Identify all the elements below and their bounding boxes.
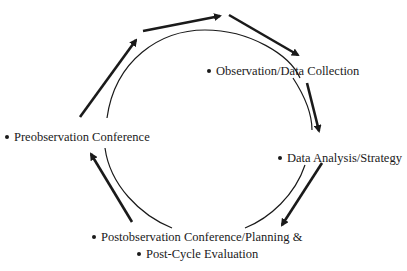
- stage-preobservation-label: Preobservation Conference: [14, 130, 150, 144]
- cycle-diagram: Observation/Data Collection Data Analysi…: [0, 0, 407, 271]
- arrow-observation-to-analysis: [307, 83, 319, 131]
- stage-observation: Observation/Data Collection: [207, 64, 359, 78]
- flow-arrows: [80, 15, 322, 225]
- arrow-pre-to-top: [80, 40, 136, 117]
- stage-observation-label: Observation/Data Collection: [216, 64, 359, 78]
- stage-preobservation: Preobservation Conference: [5, 130, 150, 144]
- stage-postobservation: Postobservation Conference/Planning &: [92, 230, 302, 244]
- inner-cycle-arc: [105, 30, 312, 228]
- bullet-icon: [137, 252, 141, 256]
- bullet-icon: [207, 69, 211, 73]
- arrow-top-left: [143, 16, 220, 31]
- stage-postobservation-label: Postobservation Conference/Planning &: [101, 230, 302, 244]
- bullet-icon: [92, 235, 96, 239]
- stage-analysis: Data Analysis/Strategy: [278, 151, 402, 165]
- arrow-post-to-pre: [91, 154, 132, 222]
- stage-evaluation-label: Post-Cycle Evaluation: [146, 247, 258, 261]
- stage-analysis-label: Data Analysis/Strategy: [287, 151, 402, 165]
- bullet-icon: [278, 156, 282, 160]
- stage-evaluation: Post-Cycle Evaluation: [137, 247, 258, 261]
- bullet-icon: [5, 135, 9, 139]
